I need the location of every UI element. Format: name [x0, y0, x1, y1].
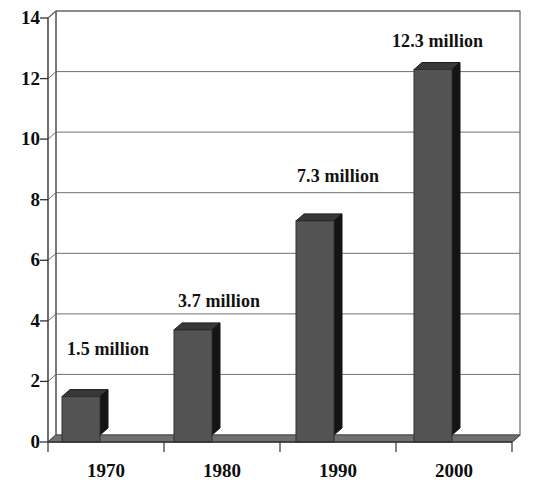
y-tick-label: 0 — [6, 432, 40, 451]
x-tick-label: 2000 — [409, 461, 499, 480]
y-tick-label: 2 — [6, 371, 40, 390]
bar-value-label-1970: 1.5 million — [67, 340, 149, 358]
x-axis-labels: 1970 1980 1990 2000 — [0, 461, 540, 491]
y-tick-label: 10 — [6, 129, 40, 148]
bar-value-label-1990: 7.3 million — [297, 167, 379, 185]
bar-1990 — [296, 214, 342, 442]
bar-value-label-1980: 3.7 million — [178, 292, 260, 310]
y-tick-label: 14 — [6, 8, 40, 27]
bar-chart: 14 12 10 8 6 4 2 0 1970 1980 1990 2000 1… — [0, 0, 540, 502]
x-tick-label: 1990 — [293, 461, 383, 480]
chart-canvas — [0, 0, 540, 502]
y-tick-label: 12 — [6, 69, 40, 88]
bar-1970 — [62, 390, 108, 442]
y-axis-ticks — [40, 18, 48, 442]
x-tick-label: 1970 — [61, 461, 151, 480]
y-tick-label: 4 — [6, 311, 40, 330]
x-tick-label: 1980 — [177, 461, 267, 480]
bar-value-label-2000: 12.3 million — [392, 32, 483, 50]
y-axis-labels: 14 12 10 8 6 4 2 0 — [0, 0, 40, 502]
bar-1980 — [174, 323, 220, 442]
bar-2000 — [414, 63, 460, 443]
x-axis-line — [48, 442, 512, 452]
y-tick-label: 6 — [6, 250, 40, 269]
y-tick-label: 8 — [6, 190, 40, 209]
